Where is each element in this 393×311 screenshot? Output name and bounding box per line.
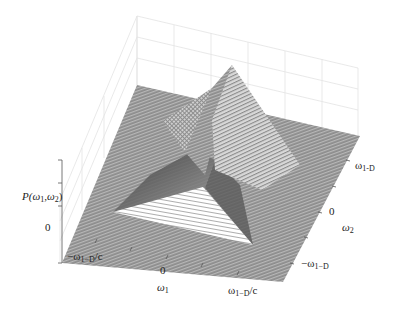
x-tick-neg-tail: /c <box>95 250 103 262</box>
z-label-close: ) <box>59 190 63 202</box>
x-tick-zero: 0 <box>160 265 166 276</box>
x-tick-neg: −ω1−D/c <box>67 251 103 264</box>
y-tick-neg-sub: 1−D <box>314 262 328 271</box>
x-axis-label: ω1 <box>157 282 169 295</box>
y-axis-sub: 2 <box>350 226 354 235</box>
z-axis-label: P(ω1,ω2) <box>22 191 62 204</box>
x-axis-w: ω <box>157 281 165 293</box>
z-label-w1: ω <box>32 190 40 202</box>
y-tick-neg: −ω1−D <box>301 258 329 271</box>
x-tick-neg-sub: 1−D <box>80 255 94 264</box>
z-label-w2: ω <box>47 190 55 202</box>
y-tick-neg-main: −ω <box>301 257 314 269</box>
surface-plot <box>0 0 393 311</box>
y-tick-pos: ω1-D <box>355 160 375 173</box>
z-label-p: P( <box>22 190 32 202</box>
x-tick-pos-sub: 1−D <box>235 289 249 298</box>
y-tick-pos-sub: 1-D <box>362 164 374 173</box>
y-axis-label: ω2 <box>342 222 354 235</box>
x-tick-pos: ω1−D/c <box>228 285 258 298</box>
x-tick-neg-main: −ω <box>67 250 80 262</box>
x-axis-sub: 1 <box>165 286 169 295</box>
z-tick-zero: 0 <box>45 222 51 233</box>
y-tick-zero: 0 <box>329 206 335 217</box>
x-tick-pos-tail: /c <box>250 284 258 296</box>
y-axis-w: ω <box>342 221 350 233</box>
